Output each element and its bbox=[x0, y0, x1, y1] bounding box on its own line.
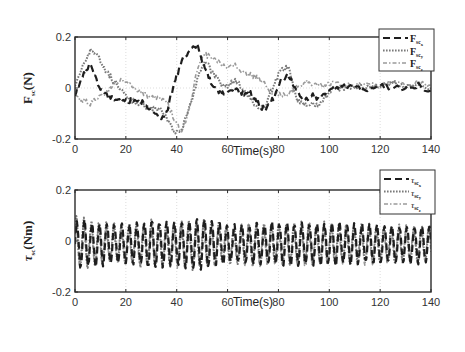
force-x-axis-label: Time(s) bbox=[233, 144, 273, 158]
torque-series bbox=[75, 216, 431, 270]
force-chart: 020406080100120140 -0.200.2 Time(s) Fsc(… bbox=[20, 29, 440, 158]
force-y-label-unit: (N) bbox=[20, 72, 35, 90]
series-line-dashdot bbox=[75, 53, 431, 133]
x-tick-label: 40 bbox=[171, 296, 183, 308]
force-y-axis-label: Fsc(N) bbox=[20, 72, 37, 104]
y-tick-label: -0.2 bbox=[52, 286, 71, 298]
x-tick-label: 0 bbox=[72, 296, 78, 308]
x-tick-label: 60 bbox=[221, 296, 233, 308]
x-tick-label: 40 bbox=[171, 143, 183, 155]
y-tick-label: 0.2 bbox=[56, 31, 71, 43]
torque-y-axis-label: τsc(Nm) bbox=[20, 221, 37, 262]
x-tick-label: 100 bbox=[320, 296, 338, 308]
force-y-label-main: F bbox=[20, 96, 35, 104]
force-y-ticks: -0.200.2 bbox=[52, 31, 78, 145]
x-tick-label: 120 bbox=[371, 296, 389, 308]
y-tick-label: 0 bbox=[65, 235, 71, 247]
torque-y-label-unit: (Nm) bbox=[20, 221, 35, 250]
y-tick-label: -0.2 bbox=[52, 133, 71, 145]
x-tick-label: 60 bbox=[221, 143, 233, 155]
force-series bbox=[75, 44, 431, 134]
x-tick-label: 80 bbox=[272, 296, 284, 308]
torque-y-ticks: -0.200.2 bbox=[52, 184, 78, 298]
series-line-dotted bbox=[75, 49, 431, 134]
y-tick-label: 0 bbox=[65, 82, 71, 94]
figure: 020406080100120140 -0.200.2 Time(s) Fsc(… bbox=[0, 0, 465, 352]
x-tick-label: 140 bbox=[422, 296, 440, 308]
x-tick-label: 120 bbox=[371, 143, 389, 155]
x-tick-label: 140 bbox=[422, 143, 440, 155]
y-tick-label: 0.2 bbox=[56, 184, 71, 196]
torque-chart: 020406080100120140 -0.200.2 Time(s) τsc(… bbox=[20, 170, 440, 309]
x-tick-label: 20 bbox=[120, 143, 132, 155]
force-legend: FscxFscyFscz bbox=[379, 29, 434, 72]
series-line-dashed bbox=[75, 44, 431, 120]
x-tick-label: 20 bbox=[120, 296, 132, 308]
x-tick-label: 80 bbox=[272, 143, 284, 155]
x-tick-label: 100 bbox=[320, 143, 338, 155]
torque-x-axis-label: Time(s) bbox=[233, 295, 273, 309]
torque-legend: τscxτscyτscz bbox=[380, 170, 435, 214]
x-tick-label: 0 bbox=[72, 143, 78, 155]
